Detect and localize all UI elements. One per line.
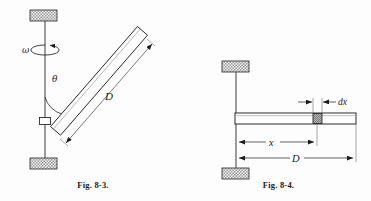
theta-label: θ [52,74,58,84]
figure-sheet: ω θ D [0,0,371,201]
collar-hinge [40,118,51,125]
theta-arc [45,97,62,114]
top-support-block [30,10,57,21]
figure-8-4-drawing: dx x D [186,0,371,180]
figure-8-3: ω θ D [0,0,186,201]
element-dx-label: dx [338,97,348,107]
figure-8-4: dx x D Fig. 8-4. [186,0,371,201]
length-D-label: D [291,153,300,164]
omega-label: ω [22,45,30,55]
figure-8-3-drawing: ω θ D [0,0,186,180]
figure-8-3-caption: Fig. 8-3. [0,180,186,190]
inclined-bar [51,27,148,136]
distance-x-label: x [268,137,274,148]
length-D-label: D [104,90,113,102]
horizontal-bar [235,113,356,124]
bottom-support-block [222,168,249,179]
bottom-support-block [30,158,57,169]
top-support-block [222,61,249,72]
dimension-line-dx [298,98,336,113]
figure-8-4-caption: Fig. 8-4. [186,180,371,190]
differential-element-dx [313,114,322,124]
